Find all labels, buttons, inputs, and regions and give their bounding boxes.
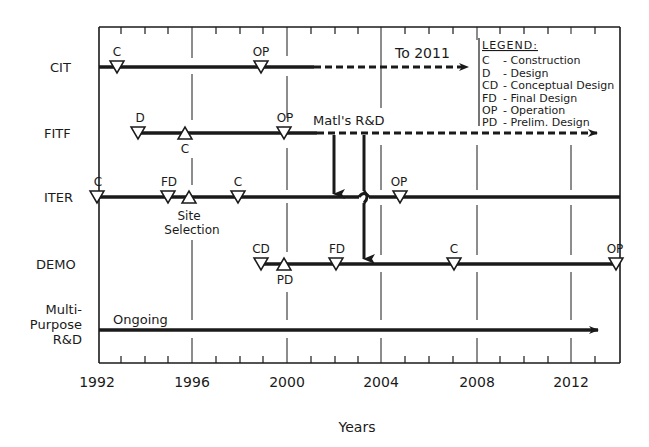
cit-annotation: To 2011 xyxy=(394,45,450,61)
legend-code: PD xyxy=(482,116,497,129)
site-selection-label: Site xyxy=(177,209,200,223)
milestone-label: OP xyxy=(277,111,294,125)
row-label-iter: ITER xyxy=(44,190,73,205)
row-demo: CD PD FD C OP xyxy=(252,242,623,287)
row-label-multipurpose-2: Purpose xyxy=(30,317,82,332)
x-tick-label: 2000 xyxy=(269,374,305,390)
legend-meaning: - Conceptual Design xyxy=(503,79,614,92)
legend: LEGEND: C - Construction D - Design CD -… xyxy=(479,38,614,129)
milestone-label: C xyxy=(181,142,189,156)
x-axis-title: Years xyxy=(338,419,376,435)
site-selection-label: Selection xyxy=(164,223,219,237)
x-tick-label: 2004 xyxy=(363,374,399,390)
ongoing-annotation: Ongoing xyxy=(113,312,168,327)
milestone-label: PD xyxy=(277,273,293,287)
milestone-label: C xyxy=(94,175,102,189)
legend-code: CD xyxy=(482,79,498,92)
milestone-label: OP xyxy=(607,242,624,256)
milestone-label: OP xyxy=(391,175,408,189)
row-label-fitf: FITF xyxy=(44,126,71,141)
timeline-chart: CIT FITF ITER DEMO Multi- Purpose R&D C … xyxy=(0,0,649,447)
row-label-multipurpose-1: Multi- xyxy=(46,302,83,317)
milestone-label: D xyxy=(135,111,144,125)
x-tick-label: 1996 xyxy=(174,374,210,390)
x-axis-labels: 1992 1996 2000 2004 2008 2012 xyxy=(79,374,589,390)
legend-meaning: - Construction xyxy=(503,54,581,67)
milestone-label: C xyxy=(234,175,242,189)
legend-code: C xyxy=(482,54,490,67)
row-cit: C OP To 2011 xyxy=(99,45,468,73)
milestone-label: OP xyxy=(253,45,270,59)
legend-title: LEGEND: xyxy=(482,39,538,52)
milestone-label: FD xyxy=(329,242,345,256)
row-iter: C FD Site Selection C OP xyxy=(90,175,620,237)
x-tick-label: 2008 xyxy=(459,374,495,390)
milestone-label: CD xyxy=(252,242,270,256)
matls-rd-annotation: Matl's R&D xyxy=(313,113,385,128)
milestone-label: C xyxy=(450,242,458,256)
milestone-label: C xyxy=(113,45,121,59)
row-label-cit: CIT xyxy=(50,60,71,75)
row-label-demo: DEMO xyxy=(36,257,76,272)
row-multipurpose: Ongoing xyxy=(99,312,598,330)
x-tick-label: 2012 xyxy=(553,374,589,390)
row-label-multipurpose-3: R&D xyxy=(53,332,82,347)
x-tick-label: 1992 xyxy=(79,374,115,390)
milestone-label: FD xyxy=(161,175,177,189)
legend-meaning: - Prelim. Design xyxy=(503,116,590,129)
